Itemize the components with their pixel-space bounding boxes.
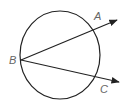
point-label-a: A bbox=[93, 10, 101, 22]
point-label-b: B bbox=[9, 54, 16, 66]
ray-bc bbox=[21, 60, 119, 82]
circle-diagram: B A C bbox=[0, 0, 128, 103]
point-label-c: C bbox=[100, 83, 108, 95]
ray-ba bbox=[21, 20, 117, 60]
